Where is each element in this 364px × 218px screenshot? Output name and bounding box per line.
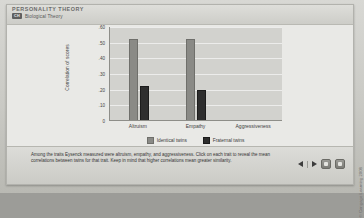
bar-group-altruism[interactable] [110, 27, 167, 120]
legend-label: Fraternal twins [213, 138, 244, 143]
caption-text: Among the traits Eysenck measured were a… [31, 152, 286, 165]
next-icon[interactable] [312, 161, 317, 167]
y-axis-ticks: .60 .50 .40 .30 .20 .10 0 [83, 27, 107, 121]
control-divider [307, 161, 308, 168]
x-label-empathy[interactable]: Empathy [167, 123, 225, 129]
caption-bar: Among the traits Eysenck measured were a… [7, 146, 353, 184]
bar-identical-empathy[interactable] [186, 39, 195, 121]
x-label-altruism[interactable]: Altruism [109, 123, 167, 129]
bar-chart: Correlation of scores .60 .50 .40 .30 .2… [67, 27, 282, 145]
x-label-aggressiveness[interactable]: Aggressiveness [224, 123, 282, 129]
chapter-badge: CH [12, 13, 22, 19]
control-button-one[interactable] [321, 159, 331, 169]
header-bar: PERSONALITY THEORY CH Biological Theory [7, 5, 353, 25]
square-icon [324, 162, 328, 166]
legend-item-identical: Identical twins [147, 137, 187, 144]
legend-swatch-icon [147, 137, 154, 144]
chart-legend: Identical twins Fraternal twins [109, 137, 282, 144]
subtitle-row: CH Biological Theory [12, 13, 63, 19]
y-tick: .30 [83, 72, 105, 77]
bar-fraternal-altruism[interactable] [140, 86, 149, 121]
content-frame: PERSONALITY THEORY CH Biological Theory … [6, 4, 354, 185]
bar-group-aggressiveness[interactable] [225, 27, 282, 120]
control-button-two[interactable] [335, 159, 345, 169]
bar-groups [110, 27, 282, 120]
y-tick: .10 [83, 103, 105, 108]
bar-group-empathy[interactable] [167, 27, 224, 120]
playback-controls [298, 159, 345, 169]
y-tick: .20 [83, 87, 105, 92]
y-tick: .50 [83, 40, 105, 45]
bar-fraternal-empathy[interactable] [197, 90, 206, 120]
x-axis-labels: Altruism Empathy Aggressiveness [109, 123, 282, 129]
y-tick: 0 [83, 119, 105, 124]
legend-swatch-icon [203, 137, 210, 144]
slide-background: PERSONALITY THEORY CH Biological Theory … [0, 0, 364, 193]
legend-item-fraternal: Fraternal twins [203, 137, 244, 144]
previous-icon[interactable] [298, 161, 303, 167]
legend-label: Identical twins [157, 138, 187, 143]
y-tick: .40 [83, 56, 105, 61]
subtitle-label: Biological Theory [25, 14, 63, 19]
y-axis-title: Correlation of scores [65, 23, 70, 113]
y-tick: .60 [83, 25, 105, 30]
copyright-text: © Cengage Learning 2008 [358, 167, 363, 193]
plot-area [109, 27, 282, 121]
page-title: PERSONALITY THEORY [12, 6, 84, 12]
bar-identical-altruism[interactable] [129, 39, 138, 121]
square-icon [338, 162, 342, 166]
